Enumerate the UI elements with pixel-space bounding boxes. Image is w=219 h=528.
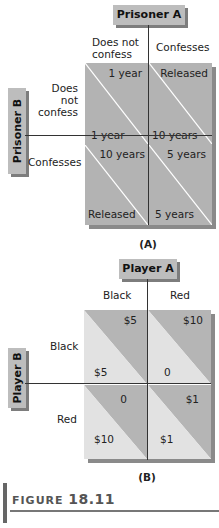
payoff-a: 1 year xyxy=(109,67,142,79)
cell-b-0-1: $10 0 xyxy=(148,310,211,384)
row-divider-line xyxy=(25,135,212,136)
payoff-a: 10 years xyxy=(99,148,145,160)
player-a-header: Player A xyxy=(119,259,177,279)
payoff-a: 5 years xyxy=(167,148,206,160)
player-b-header: Player B xyxy=(8,348,26,408)
payoff-a: $1 xyxy=(186,393,199,405)
cell-b-1-1: $1 $1 xyxy=(148,385,211,459)
row-divider-line xyxy=(25,383,211,384)
payoff-b: $5 xyxy=(94,366,107,378)
cell-b-1-0: 0 $10 xyxy=(84,385,147,459)
figure-rule xyxy=(10,510,219,512)
caption-b: (B) xyxy=(127,471,167,483)
row-label-black: Black xyxy=(50,340,78,352)
col-label-does-not-confess: Does not confess xyxy=(92,36,139,60)
cell-a-1-0: 10 years Released xyxy=(85,145,148,225)
grid-a-center-line xyxy=(148,63,149,225)
col-label-red: Red xyxy=(170,289,190,301)
payoff-a: Released xyxy=(160,67,208,79)
col-label-black: Black xyxy=(103,289,131,301)
cell-a-0-1: Released 10 years xyxy=(149,63,212,144)
payoff-b: 5 years xyxy=(155,208,194,220)
figure-accent-bar xyxy=(3,483,7,523)
cell-a-0-0: 1 year 1 year xyxy=(85,63,148,144)
cell-b-0-0: $5 $5 xyxy=(84,310,147,384)
grid-b-center-line xyxy=(147,310,148,460)
payoff-a: $10 xyxy=(183,314,203,326)
row-label-does-not-confess: Does not confess xyxy=(38,82,78,118)
prisoner-a-header: Prisoner A xyxy=(113,5,185,25)
row-label-red: Red xyxy=(57,413,77,425)
payoff-b: $10 xyxy=(94,433,114,445)
cell-a-1-1: 5 years 5 years xyxy=(149,145,212,225)
payoff-b: 0 xyxy=(164,366,171,378)
caption-a: (A) xyxy=(128,238,168,250)
payoff-a: $5 xyxy=(124,314,137,326)
row-label-confesses: Confesses xyxy=(28,156,81,168)
col-label-confesses: Confesses xyxy=(156,41,209,53)
prisoner-b-header: Prisoner B xyxy=(8,88,26,174)
figure-title: FIGURE 18.11 xyxy=(12,491,115,507)
payoff-a: 0 xyxy=(120,393,127,405)
payoff-b: $1 xyxy=(160,433,173,445)
payoff-b: Released xyxy=(88,208,136,220)
